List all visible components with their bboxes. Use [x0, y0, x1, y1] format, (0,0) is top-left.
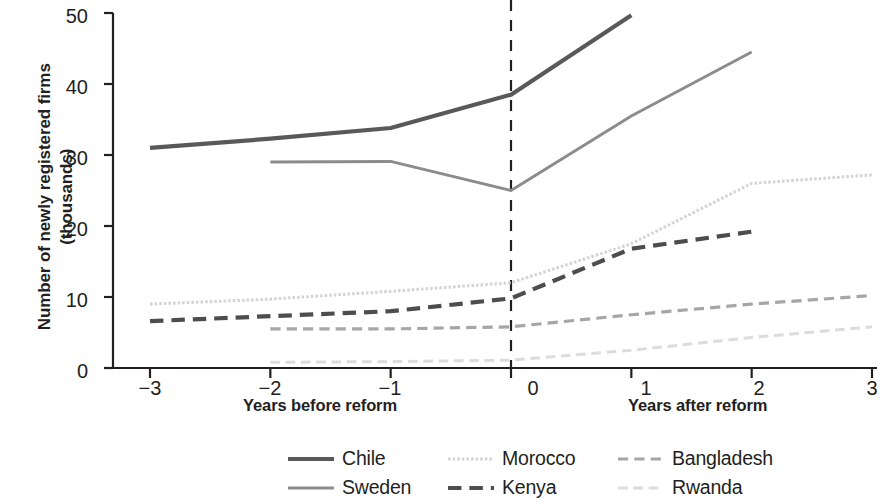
legend: Chile Morocco Bangladesh Sweden Kenya	[288, 444, 868, 500]
legend-label-rwanda: Rwanda	[672, 476, 742, 499]
legend-label-morocco: Morocco	[502, 447, 575, 470]
legend-item-sweden[interactable]: Sweden	[288, 473, 448, 500]
dotted-line-swatch	[448, 453, 494, 465]
legend-item-morocco[interactable]: Morocco	[448, 444, 618, 473]
legend-label-chile: Chile	[342, 447, 385, 470]
legend-item-kenya[interactable]: Kenya	[448, 473, 618, 500]
legend-item-rwanda[interactable]: Rwanda	[618, 473, 848, 500]
legend-row-1: Chile Morocco Bangladesh	[288, 444, 868, 473]
dashed-line-swatch	[618, 453, 664, 465]
dashed-line-swatch	[448, 482, 494, 494]
series-line-kenya	[150, 232, 752, 321]
legend-label-kenya: Kenya	[502, 476, 556, 499]
series-line-bangladesh	[270, 296, 872, 329]
legend-row-2: Sweden Kenya Rwanda	[288, 473, 868, 500]
legend-item-bangladesh[interactable]: Bangladesh	[618, 444, 848, 473]
series-line-chile	[150, 15, 631, 148]
legend-label-sweden: Sweden	[342, 476, 411, 499]
legend-item-chile[interactable]: Chile	[288, 444, 448, 473]
solid-line-swatch	[288, 482, 334, 494]
legend-label-bangladesh: Bangladesh	[672, 447, 773, 470]
dashed-line-swatch	[618, 482, 664, 494]
series-line-rwanda	[270, 327, 872, 363]
axis-lines	[104, 13, 877, 378]
solid-line-swatch	[288, 453, 334, 465]
